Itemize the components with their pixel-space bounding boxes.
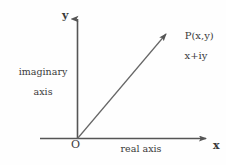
point-expression: x+iy: [166, 51, 226, 61]
imaginary-axis-label-line1: imaginary: [19, 66, 68, 77]
point-annotation: P(x,y) x+iy: [172, 21, 226, 81]
complex-number-vector: [78, 34, 167, 139]
imaginary-axis-label-line2: axis: [34, 86, 53, 97]
x-axis-label: x: [213, 141, 220, 151]
real-axis-label: real axis: [110, 144, 172, 154]
imaginary-axis-label: imaginary axis: [4, 57, 70, 107]
argand-diagram-figure: y x O imaginary axis real axis P(x,y) x+…: [0, 0, 226, 165]
origin-label: O: [71, 140, 80, 150]
point-label: P(x,y): [185, 30, 214, 41]
y-axis-label: y: [62, 11, 68, 21]
